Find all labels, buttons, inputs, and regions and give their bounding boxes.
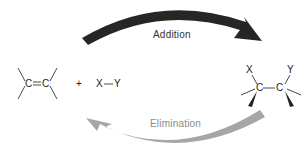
reagent-y: Y	[114, 79, 121, 89]
product-substituent-x: X	[246, 65, 253, 75]
product-carbon-1: C	[256, 83, 263, 93]
reagent-x: X	[96, 79, 103, 89]
alkene-carbon-2: C	[42, 79, 49, 89]
alkene-carbon-1: C	[25, 79, 32, 89]
product-structure	[241, 75, 301, 107]
alkene-structure	[18, 68, 57, 99]
plus-sign: +	[76, 79, 82, 89]
product-substituent-y: Y	[287, 65, 294, 75]
elimination-label: Elimination	[150, 118, 201, 129]
addition-label: Addition	[153, 29, 191, 40]
product-carbon-2: C	[276, 83, 283, 93]
reaction-diagram: C C + X Y X Y C C Addition Elimination	[0, 0, 308, 159]
